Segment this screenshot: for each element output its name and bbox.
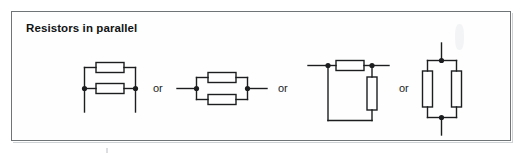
or-connector-label-2: or	[278, 82, 288, 94]
circuit-vertical-parallel-vertical-leads	[423, 43, 462, 135]
resistor-body	[336, 61, 364, 71]
junction-dot	[194, 86, 199, 91]
junction-dot	[245, 86, 250, 91]
circuit-inline-parallel-horizontal-leads	[177, 73, 267, 105]
circuit-diagram-canvas	[0, 0, 528, 154]
junction-dot	[439, 115, 444, 120]
resistor-body	[423, 71, 433, 107]
resistor-body	[208, 73, 236, 83]
circuit-ladder-parallel-vertical-leads	[85, 63, 136, 113]
junction-dot	[369, 63, 374, 68]
figure-root: Resistors in parallel	[0, 0, 528, 154]
resistor-body	[208, 95, 236, 105]
resistor-body	[452, 71, 462, 107]
junction-dot	[439, 58, 444, 63]
resistor-body	[367, 77, 377, 110]
junction-dot	[133, 86, 138, 91]
junction-dot	[82, 86, 87, 91]
or-connector-label-1: or	[153, 82, 163, 94]
resistor-body	[96, 63, 124, 73]
or-connector-label-3: or	[399, 82, 409, 94]
junction-dot	[325, 63, 330, 68]
circuit-loop-parallel-mixed	[308, 61, 389, 121]
resistor-body	[96, 84, 124, 94]
